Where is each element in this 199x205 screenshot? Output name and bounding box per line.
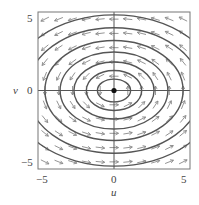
phase-portrait (0, 0, 199, 205)
field-arrow-icon (55, 45, 62, 50)
field-arrow-icon (165, 31, 173, 35)
field-arrow-icon (96, 32, 105, 35)
field-arrow-icon (82, 117, 90, 121)
field-arrow-icon (123, 17, 132, 20)
field-arrow-icon (138, 60, 146, 64)
field-arrow-icon (70, 72, 75, 79)
field-arrow-icon (123, 146, 132, 149)
field-arrow-icon (96, 160, 105, 163)
field-arrow-icon (138, 73, 144, 79)
field-arrow-icon (41, 160, 49, 164)
field-arrow-icon (57, 72, 61, 80)
x-tick-neg5: −5 (36, 174, 48, 185)
field-arrow-icon (83, 73, 89, 79)
x-tick-0: 0 (111, 174, 117, 185)
field-arrow-icon (82, 60, 90, 64)
y-tick-neg5: −5 (21, 157, 33, 168)
field-arrow-icon (137, 131, 146, 134)
field-arrow-icon (179, 17, 187, 21)
field-arrow-icon (82, 32, 91, 35)
field-arrow-icon (123, 131, 132, 134)
field-arrow-icon (96, 46, 105, 49)
field-arrow-icon (180, 58, 186, 65)
field-arrow-icon (96, 18, 105, 21)
field-arrow-icon (96, 132, 105, 135)
field-arrow-icon (179, 160, 187, 164)
field-arrow-icon (166, 45, 173, 50)
field-arrow-icon (138, 117, 146, 121)
field-arrow-icon (70, 101, 75, 108)
field-arrow-icon (55, 31, 63, 35)
field-arrow-icon (123, 46, 132, 49)
field-arrow-icon (165, 145, 173, 149)
field-arrow-icon (42, 58, 48, 65)
field-arrow-icon (153, 101, 158, 108)
field-arrow-icon (123, 32, 132, 35)
field-arrow-icon (153, 72, 158, 79)
field-arrow-icon (55, 17, 63, 21)
field-arrow-icon (57, 101, 61, 109)
x-tick-5: 5 (181, 174, 187, 185)
field-arrow-icon (41, 17, 49, 21)
field-arrow-icon (166, 131, 173, 136)
y-tick-0: 0 (27, 85, 33, 96)
field-arrow-icon (165, 17, 173, 21)
field-arrow-icon (82, 46, 91, 49)
equilibrium-point (111, 88, 116, 93)
field-arrow-icon (180, 116, 186, 123)
field-arrow-icon (83, 102, 89, 108)
field-arrow-icon (55, 131, 62, 136)
field-arrow-icon (123, 160, 132, 163)
field-arrow-icon (42, 116, 48, 123)
x-axis-label: u (111, 186, 117, 198)
field-arrow-icon (96, 146, 105, 149)
field-arrow-icon (55, 146, 63, 150)
field-arrow-icon (167, 101, 171, 109)
field-arrow-icon (167, 72, 171, 80)
field-arrow-icon (165, 160, 173, 164)
field-arrow-icon (137, 146, 146, 149)
field-arrow-icon (55, 160, 63, 164)
y-axis-label: v (13, 84, 18, 96)
field-arrow-icon (138, 102, 144, 108)
y-tick-5: 5 (27, 13, 33, 24)
